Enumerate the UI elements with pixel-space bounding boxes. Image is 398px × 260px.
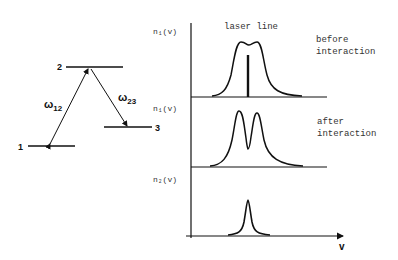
panel-3-curve [228, 200, 270, 235]
panel-2-note-line1: after [317, 117, 344, 127]
x-axis-label: v [339, 241, 345, 252]
omega-12-label: ω12 [44, 98, 63, 113]
level-2-label: 2 [57, 62, 62, 72]
panel-1-curve [212, 42, 302, 96]
diagram-canvas: 2 3 1 ω12 ω23 n₁(v) n₁(v) n₂(v) laser li… [0, 0, 398, 260]
panel-2-ylabel: n₁(v) [153, 104, 177, 113]
panel-1-note-line2: interaction [316, 47, 375, 57]
panel-2-note-line2: interaction [317, 129, 376, 139]
omega-23-label: ω23 [118, 91, 137, 106]
panel-2-curve [210, 111, 303, 166]
spectra-plot: n₁(v) n₁(v) n₂(v) laser line before inte… [153, 22, 376, 252]
level-1-label: 1 [18, 142, 23, 152]
panel-3-ylabel: n₂(v) [153, 175, 177, 184]
laser-line-label: laser line [224, 22, 278, 32]
energy-level-diagram: 2 3 1 ω12 ω23 [18, 62, 160, 152]
panel-1-ylabel: n₁(v) [153, 27, 177, 36]
panel-1-note-line1: before [316, 35, 348, 45]
level-3-label: 3 [155, 123, 160, 133]
